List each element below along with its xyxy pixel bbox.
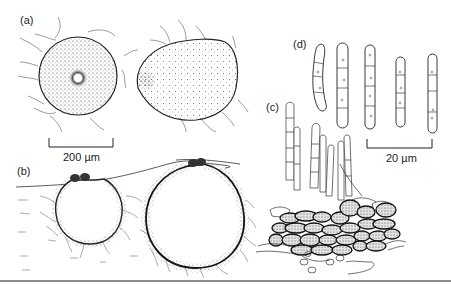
figure: (a) (b) (c) (d) 200 µm 20 µm — [0, 0, 451, 284]
panel-label-b: (b) — [17, 166, 30, 177]
panel-a-drawing — [18, 17, 248, 132]
panel-label-c: (c) — [266, 102, 279, 113]
panel-d-drawing — [313, 43, 437, 133]
ascospore-2 — [337, 43, 348, 128]
ascospore-5 — [428, 54, 437, 133]
ascospore-4 — [396, 57, 405, 127]
scale-bar-label-200um: 200 µm — [63, 152, 100, 163]
illustration — [0, 0, 451, 284]
bottom-rule — [0, 280, 451, 282]
panel-c-drawing — [256, 102, 406, 274]
stroma-cells — [269, 200, 400, 255]
scale-bar-200um — [49, 138, 113, 147]
scale-bar-label-20um: 20 µm — [386, 153, 417, 164]
panel-label-d: (d) — [293, 39, 306, 50]
ascospore-1 — [313, 44, 327, 111]
panel-b-drawing — [16, 158, 256, 278]
panel-label-a: (a) — [20, 15, 33, 26]
scale-bar-20um — [367, 139, 432, 148]
